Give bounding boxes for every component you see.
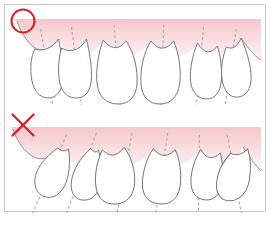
correct-teeth-illustration	[5, 5, 265, 109]
tooth-4	[141, 41, 180, 104]
figure-root	[0, 0, 271, 225]
tooth-4	[141, 148, 182, 205]
figure-frame	[4, 4, 266, 212]
tooth-6	[222, 38, 252, 97]
tooth-5	[190, 43, 221, 99]
panel-correct	[5, 5, 265, 109]
tooth-3	[97, 40, 137, 104]
panel-incorrect	[5, 109, 265, 213]
figure-caption	[6, 214, 266, 225]
incorrect-teeth-illustration	[5, 109, 265, 213]
